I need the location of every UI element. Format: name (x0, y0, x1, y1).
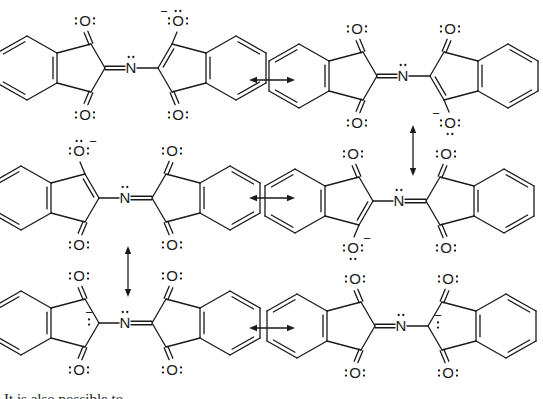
lone-pair-dot (87, 246, 89, 248)
c-o-double-bond (82, 223, 87, 235)
ring-bond (363, 76, 377, 100)
c-o-double-bond (354, 291, 359, 303)
lone-pair-dot (87, 152, 89, 154)
ring-bond (51, 338, 85, 347)
ring-bond (363, 52, 377, 76)
lone-pair-dot (400, 189, 402, 191)
arrowhead-icon (287, 77, 295, 83)
c-o-double-bond (444, 349, 449, 361)
benzene-bond (474, 216, 504, 233)
benzene-bond (267, 341, 297, 358)
benzene-bond (299, 91, 329, 108)
ring-bond (51, 299, 85, 308)
benzene-bond (0, 83, 27, 100)
double-bond-inner (0, 212, 19, 224)
ring-bond (442, 302, 476, 311)
lone-pair-dot (69, 246, 71, 248)
oxygen-anion-label: O (444, 114, 456, 131)
lone-pair-dot (168, 116, 170, 118)
c-o-double-bond (164, 286, 169, 298)
benzene-bond (21, 166, 51, 183)
lone-pair-dot (345, 374, 347, 376)
lone-pair-dot (162, 371, 164, 373)
c-o-double-bond (360, 39, 365, 51)
ring-bond (361, 302, 375, 326)
benzene-bond (206, 36, 236, 53)
c-o-single-bond (444, 100, 449, 112)
resonance-structure-s5: OO−OON (0, 267, 260, 378)
lone-pair-dot (132, 56, 134, 58)
lone-pair-dot (76, 140, 78, 142)
lone-pair-dot (345, 280, 347, 282)
lone-pair-dot (87, 366, 89, 368)
lone-pair-dot (126, 311, 128, 313)
oxygen-label: O (73, 361, 85, 378)
lone-pair-dot (69, 371, 71, 373)
c-o-double-bond (356, 164, 361, 176)
oxygen-label: O (79, 12, 91, 29)
lone-pair-dot (347, 119, 349, 121)
ring-bond (426, 177, 440, 201)
c-o-double-bond (84, 91, 89, 103)
benzene-bond (230, 213, 260, 230)
resonance-arrow (249, 325, 295, 331)
lone-pair-dot (180, 246, 182, 248)
oxygen-label: O (351, 114, 363, 131)
arrowhead-icon (249, 195, 257, 201)
c-o-double-bond (440, 289, 445, 301)
ring-bond (325, 216, 359, 225)
lone-pair-dot (87, 371, 89, 373)
benzene-bond (267, 294, 297, 311)
lone-pair-dot (456, 275, 458, 277)
resonance-structure-s6: OOOO−N (267, 270, 536, 381)
ring-bond (444, 91, 478, 100)
lone-pair-dot (162, 366, 164, 368)
benzene-bond (295, 169, 325, 186)
benzene-bond (200, 338, 230, 355)
ring-bond (426, 201, 440, 225)
lone-pair-dot (168, 17, 170, 19)
c-o-double-bond (168, 346, 173, 358)
double-bond-inner (0, 172, 19, 184)
oxygen-label: O (79, 106, 91, 123)
c-o-double-bond (164, 223, 169, 235)
lone-pair-dot (186, 17, 188, 19)
lone-pair-dot (440, 25, 442, 27)
ring-bond (440, 177, 474, 186)
resonance-diagram: OOO−ONOOOO−NO−OOONOO−OONOO−OONOOOO−N (0, 0, 543, 399)
resonance-arrow (249, 195, 295, 201)
lone-pair-dot (365, 124, 367, 126)
arrowhead-icon (287, 195, 295, 201)
lone-pair-dot (354, 258, 356, 260)
lone-pair-dot (93, 22, 95, 24)
lone-pair-dot (162, 272, 164, 274)
benzene-bond (230, 338, 260, 355)
c-o-double-bond (78, 221, 83, 233)
arrowhead-icon (125, 289, 131, 297)
oxygen-label: O (347, 145, 359, 162)
lone-pair-dot (93, 116, 95, 118)
benzene-bond (269, 44, 299, 61)
lone-pair-dot (162, 277, 164, 279)
c-o-double-bond (438, 164, 443, 176)
lone-pair-dot (80, 140, 82, 142)
lone-pair-dot (454, 155, 456, 157)
lone-pair-dot (347, 124, 349, 126)
c-o-double-bond (164, 348, 169, 360)
c-o-double-bond (82, 348, 87, 360)
lone-pair-dot (69, 366, 71, 368)
benzene-bond (236, 36, 266, 53)
lone-pair-dot (440, 124, 442, 126)
ring-bond (51, 174, 85, 183)
lone-pair-dot (69, 152, 71, 154)
resonance-structure-s1: OOO−ON (0, 4, 266, 123)
c-o-double-bond (170, 93, 175, 105)
arrowhead-icon (287, 325, 295, 331)
lone-pair-dot (69, 241, 71, 243)
ring-bond (57, 83, 91, 92)
lone-pair-dot (365, 119, 367, 121)
c-o-double-bond (446, 41, 451, 53)
oxygen-label: O (73, 267, 85, 284)
benzene-bond (0, 36, 27, 53)
lone-pair-dot (343, 155, 345, 157)
